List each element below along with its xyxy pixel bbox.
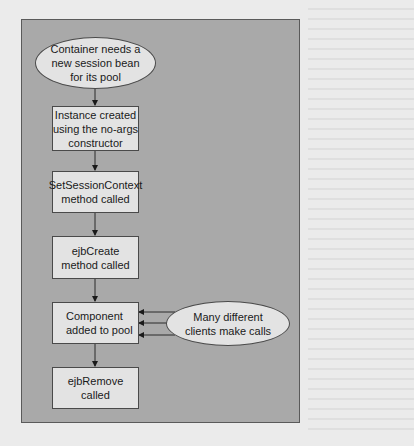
node-instance-created: Instance created using the no-args const… <box>52 106 139 151</box>
node-container-needs-bean: Container needs a new session bean for i… <box>35 37 156 89</box>
node-set-session-context: SetSessionContext method called <box>52 171 139 213</box>
page-bleed-through-text <box>308 8 414 438</box>
node-ejb-remove: ejbRemove called <box>52 367 139 409</box>
node-ejb-create: ejbCreate method called <box>52 236 139 279</box>
node-component-added-to-pool: Component added to pool <box>52 302 139 344</box>
node-many-clients: Many different clients make calls <box>166 301 290 346</box>
